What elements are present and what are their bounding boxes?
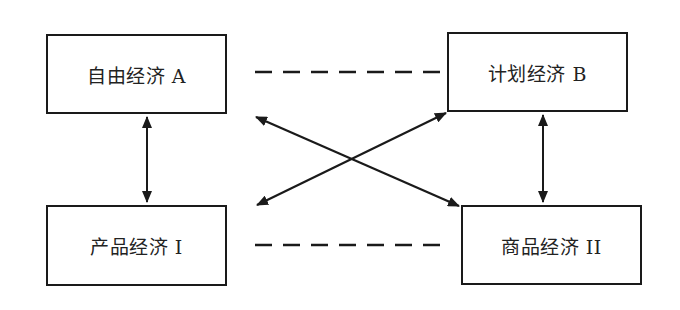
node-label: 自由经济 A (87, 61, 186, 88)
edge-a-ii-double-arrow (256, 117, 459, 206)
node-commodity-economy-ii: 商品经济 II (461, 205, 642, 285)
node-label: 商品经济 II (501, 232, 602, 259)
node-label: 产品经济 I (90, 232, 183, 259)
node-product-economy-i: 产品经济 I (46, 205, 227, 286)
node-label: 计划经济 B (488, 59, 587, 86)
node-planned-economy-b: 计划经济 B (447, 32, 628, 112)
diagram-canvas: 自由经济 A 计划经济 B 产品经济 I 商品经济 II (0, 0, 680, 310)
node-free-economy-a: 自由经济 A (46, 34, 227, 114)
edge-b-i-double-arrow (257, 113, 446, 205)
